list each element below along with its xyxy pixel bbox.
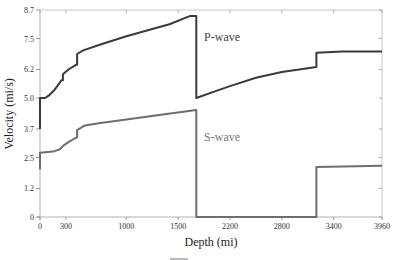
x-tick-label: 1500: [170, 222, 186, 231]
p-wave-label: P-wave: [204, 30, 240, 44]
y-tick-label: 7.5: [24, 35, 34, 44]
x-tick-label: 1000: [118, 222, 134, 231]
x-tick-label: 2200: [222, 222, 238, 231]
y-tick-label: 5.0: [24, 94, 34, 103]
x-axis-title: Depth (mi): [185, 235, 238, 249]
x-tick-label: 0: [38, 222, 42, 231]
y-axis-title: Velocity (mi/s): [2, 78, 16, 150]
series-lines: [40, 16, 382, 217]
x-tick-label: 2800: [274, 222, 290, 231]
y-tick-label: 3.7: [24, 125, 34, 134]
y-tick-label: 2.5: [24, 154, 34, 163]
x-tick-label: 3400: [326, 222, 342, 231]
y-tick-label: 6.2: [24, 65, 34, 74]
x-tick-label: 3960: [374, 222, 390, 231]
y-tick-label: 0: [30, 213, 34, 222]
s-wave-line: [40, 110, 382, 217]
x-tick-label: 300: [60, 222, 72, 231]
velocity-depth-chart: 030010001500220028003400396001.22.53.75.…: [0, 0, 396, 260]
y-tick-label: 8.7: [24, 6, 34, 15]
s-wave-label: S-wave: [204, 130, 240, 144]
y-tick-label: 1.2: [24, 184, 34, 193]
